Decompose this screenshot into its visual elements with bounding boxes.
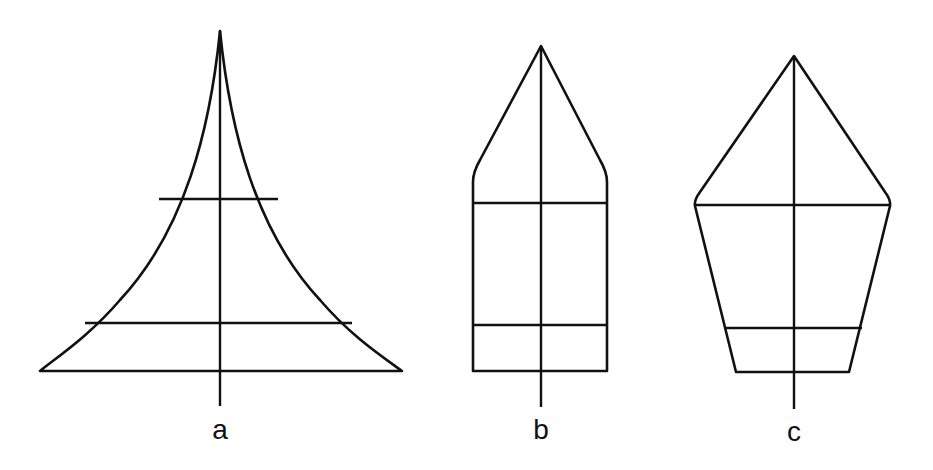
figure-canvas [0,0,933,470]
panel-c-shape [695,56,890,409]
panel-a-label: a [212,416,228,444]
panel-c-label: c [787,418,801,446]
panel-b-label: b [533,416,549,444]
panel-a-shape [40,31,402,406]
panel-c-outline [695,56,890,372]
panel-b-shape [473,46,607,407]
